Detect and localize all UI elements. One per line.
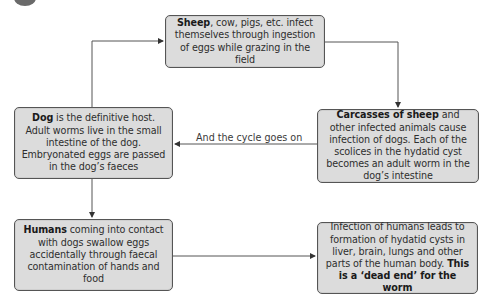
corner-decoration-dot xyxy=(14,0,36,6)
arrow-dog-to-sheep xyxy=(92,41,163,107)
node-dog: Dog is the definitive host. Adult worms … xyxy=(14,107,173,179)
edge-label-cycle: And the cycle goes on xyxy=(196,132,302,143)
node-humans: Humans coming into contact with dogs swa… xyxy=(14,219,173,291)
node-carcasses: Carcasses of sheep and other infected an… xyxy=(317,109,479,183)
node-humans-text: Humans coming into contact with dogs swa… xyxy=(20,224,167,285)
node-carcasses-text: Carcasses of sheep and other infected an… xyxy=(323,109,473,182)
node-sheep: Sheep, cow, pigs, etc. infect themselves… xyxy=(165,15,325,68)
arrow-sheep-to-carcass xyxy=(325,42,398,107)
node-dog-text: Dog is the definitive host. Adult worms … xyxy=(20,112,167,173)
node-human-infection-text: Infection of humans leads to formation o… xyxy=(323,221,472,294)
node-sheep-text: Sheep, cow, pigs, etc. infect themselves… xyxy=(171,17,319,66)
node-human-infection: Infection of humans leads to formation o… xyxy=(317,222,478,294)
